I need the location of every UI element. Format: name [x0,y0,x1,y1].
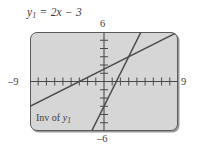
inverse-label-prefix: Inv of [36,112,63,123]
x-axis-max-label: 9 [181,76,186,87]
y-axis-min-label: –6 [97,133,108,144]
title-equation: y1 = 2x − 3 [27,6,82,20]
title-subscript: 1 [32,11,36,20]
inverse-curve-label: Inv of y1 [36,112,71,125]
inverse-label-subscript: 1 [67,116,71,125]
y-axis-max-label: 6 [100,18,105,29]
title-expression: = 2x − 3 [40,6,82,18]
graph-figure: y1 = 2x − 3 [0,0,198,154]
x-axis-min-label: –9 [8,76,19,87]
